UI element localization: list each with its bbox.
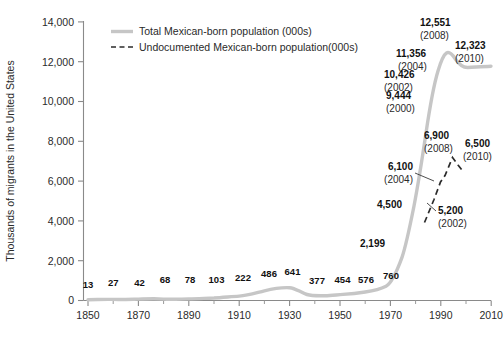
point-label-486: 486 bbox=[261, 268, 277, 279]
x-tick-label-1990: 1990 bbox=[429, 309, 453, 321]
point-label-5200: 5,200 bbox=[438, 205, 463, 216]
point-label-222: 222 bbox=[235, 272, 251, 283]
point-label-4500: 4,500 bbox=[377, 199, 402, 210]
point-label-576: 576 bbox=[358, 274, 374, 285]
legend-label-undocumented: Undocumented Mexican-born population(000… bbox=[139, 41, 358, 53]
y-tick-label-14000: 14,000 bbox=[42, 16, 74, 28]
legend: Total Mexican-born population (000s) Und… bbox=[111, 25, 358, 53]
x-tick-label-1850: 1850 bbox=[76, 309, 100, 321]
point-label-27: 27 bbox=[108, 277, 119, 288]
chart-figure: 0 2,000 4,000 6,000 8,000 10,000 12,000 … bbox=[0, 0, 504, 337]
point-label-6100: 6,100 bbox=[388, 161, 413, 172]
point-label-78: 78 bbox=[185, 274, 196, 285]
point-label-5200-year: (2002) bbox=[438, 218, 467, 229]
leader-5200 bbox=[427, 203, 436, 211]
x-tick-marks bbox=[88, 301, 491, 307]
point-label-12551: 12,551 bbox=[420, 17, 451, 28]
point-label-6900-year: (2008) bbox=[424, 143, 453, 154]
point-label-9444-year: (2000) bbox=[386, 103, 415, 114]
point-label-6100-year: (2004) bbox=[384, 174, 413, 185]
x-tick-label-1870: 1870 bbox=[127, 309, 151, 321]
x-tick-label-1890: 1890 bbox=[177, 309, 201, 321]
point-labels-early: 13 27 42 68 78 103 222 486 641 377 454 5… bbox=[83, 266, 399, 291]
y-tick-label-6000: 6,000 bbox=[48, 175, 74, 187]
point-label-103: 103 bbox=[209, 274, 225, 285]
point-labels-total-top: 9,444 (2000) 10,426 (2002) 11,356 (2004)… bbox=[384, 17, 486, 114]
x-tick-label-2010: 2010 bbox=[480, 309, 504, 321]
y-tick-label-12000: 12,000 bbox=[42, 56, 74, 68]
y-tick-label-10000: 10,000 bbox=[42, 95, 74, 107]
point-label-13: 13 bbox=[83, 279, 94, 290]
point-label-10426-year: (2002) bbox=[384, 82, 413, 93]
axes bbox=[78, 21, 491, 306]
point-label-42: 42 bbox=[134, 277, 145, 288]
y-tick-label-2000: 2,000 bbox=[48, 255, 74, 267]
x-tick-label-1910: 1910 bbox=[228, 309, 252, 321]
point-label-12323: 12,323 bbox=[455, 40, 486, 51]
point-label-6900: 6,900 bbox=[424, 130, 449, 141]
y-tick-labels: 0 2,000 4,000 6,000 8,000 10,000 12,000 … bbox=[42, 16, 74, 307]
point-labels-mid: 2,199 4,500 bbox=[360, 199, 402, 249]
series-total-line bbox=[88, 53, 491, 300]
point-labels-undocumented: 6,100 (2004) 6,900 (2008) 6,500 (2010) 5… bbox=[384, 130, 492, 229]
point-label-454: 454 bbox=[335, 274, 352, 285]
x-tick-label-1930: 1930 bbox=[278, 309, 302, 321]
point-label-2199: 2,199 bbox=[360, 238, 385, 249]
y-tick-label-4000: 4,000 bbox=[48, 215, 74, 227]
y-tick-label-8000: 8,000 bbox=[48, 135, 74, 147]
x-tick-label-1950: 1950 bbox=[328, 309, 352, 321]
point-label-11356-year: (2004) bbox=[398, 61, 427, 72]
y-tick-label-0: 0 bbox=[68, 294, 74, 306]
point-label-377: 377 bbox=[309, 275, 325, 286]
point-label-12551-year: (2008) bbox=[420, 30, 449, 41]
point-label-12323-year: (2010) bbox=[455, 53, 484, 64]
point-label-760: 760 bbox=[383, 270, 399, 281]
y-axis-title: Thousands of migrants in the United Stat… bbox=[4, 60, 16, 261]
y-tick-marks bbox=[78, 22, 84, 301]
x-tick-label-1970: 1970 bbox=[379, 309, 403, 321]
x-tick-labels: 1850 1870 1890 1910 1930 1950 1970 1990 … bbox=[76, 309, 503, 321]
point-label-6500-year: (2010) bbox=[463, 151, 492, 162]
point-label-6500: 6,500 bbox=[465, 138, 490, 149]
point-label-68: 68 bbox=[160, 274, 171, 285]
point-label-641: 641 bbox=[285, 266, 302, 277]
migration-line-chart: 0 2,000 4,000 6,000 8,000 10,000 12,000 … bbox=[0, 0, 504, 337]
point-label-11356: 11,356 bbox=[396, 48, 426, 59]
legend-label-total: Total Mexican-born population (000s) bbox=[139, 25, 312, 37]
